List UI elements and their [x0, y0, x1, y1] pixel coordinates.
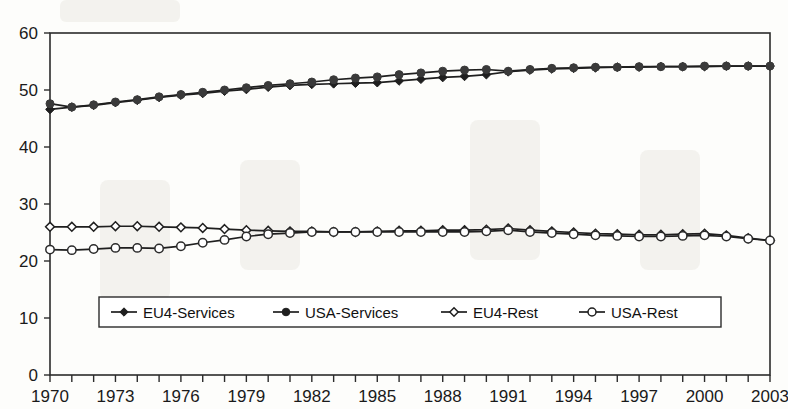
data-point-marker [177, 223, 186, 232]
data-point-marker [373, 228, 381, 236]
data-point-marker [67, 222, 76, 231]
x-tick-label: 1985 [358, 387, 396, 406]
y-axis-tick-marks [44, 33, 50, 375]
data-point-marker [90, 101, 98, 109]
series-usa-services [46, 62, 774, 111]
data-point-marker [570, 64, 578, 72]
data-point-marker [68, 246, 76, 254]
data-point-marker [591, 231, 599, 239]
data-point-marker [482, 227, 490, 235]
data-point-marker [701, 62, 709, 70]
data-point-marker [46, 245, 54, 253]
x-tick-label: 1991 [489, 387, 527, 406]
data-point-marker [286, 229, 294, 237]
data-point-marker [155, 244, 163, 252]
x-tick-label: 1976 [162, 387, 200, 406]
data-point-marker [177, 91, 185, 99]
x-tick-label: 1982 [293, 387, 331, 406]
x-tick-label: 1994 [555, 387, 593, 406]
data-point-marker [373, 73, 381, 81]
paper-smudges [60, 0, 700, 300]
y-tick-label: 0 [29, 366, 38, 385]
x-axis-tick-labels: 1970197319761979198219851988199119941997… [31, 387, 788, 406]
legend-label: EU4-Rest [473, 304, 539, 321]
data-point-marker [329, 228, 337, 236]
data-point-marker [635, 63, 643, 71]
data-point-marker [417, 69, 425, 77]
data-point-marker [591, 63, 599, 71]
data-point-marker [198, 224, 207, 233]
data-point-marker [111, 244, 119, 252]
data-point-marker [133, 96, 141, 104]
series-line [50, 66, 770, 109]
y-tick-label: 40 [19, 138, 38, 157]
data-point-marker [133, 244, 141, 252]
data-point-marker [68, 103, 76, 111]
data-point-marker [395, 228, 403, 236]
data-point-marker [526, 65, 534, 73]
y-tick-label: 20 [19, 252, 38, 271]
data-point-marker [548, 64, 556, 72]
y-tick-label: 10 [19, 309, 38, 328]
data-point-marker [351, 228, 359, 236]
data-point-marker [199, 88, 207, 96]
data-point-marker [744, 235, 752, 243]
data-point-marker [657, 63, 665, 71]
data-point-marker [220, 236, 228, 244]
data-point-marker [111, 98, 119, 106]
data-point-marker [504, 67, 512, 75]
data-point-marker [635, 232, 643, 240]
data-point-marker [46, 100, 54, 108]
data-point-marker [613, 232, 621, 240]
legend-label: USA-Rest [611, 304, 679, 321]
data-point-marker [504, 226, 512, 234]
data-point-marker [417, 228, 425, 236]
data-point-marker [221, 86, 229, 94]
data-point-marker [264, 81, 272, 89]
line-chart: 0102030405060 19701973197619791982198519… [0, 0, 788, 409]
data-point-marker [46, 222, 55, 231]
data-point-marker [722, 232, 730, 240]
data-point-marker [588, 308, 596, 316]
x-tick-label: 2003 [751, 387, 788, 406]
data-point-marker [569, 230, 577, 238]
data-point-marker [461, 66, 469, 74]
data-point-marker [199, 239, 207, 247]
series-eu4-services [46, 62, 775, 114]
data-point-marker [264, 230, 272, 238]
data-point-marker [351, 74, 359, 82]
data-point-marker [460, 228, 468, 236]
data-point-marker [439, 228, 447, 236]
data-point-marker [744, 62, 752, 70]
data-point-marker [220, 225, 229, 234]
data-point-marker [395, 71, 403, 79]
y-axis-tick-labels: 0102030405060 [19, 24, 38, 385]
data-point-marker [679, 63, 687, 71]
data-point-marker [282, 308, 290, 316]
data-point-marker [613, 63, 621, 71]
data-point-marker [548, 229, 556, 237]
data-point-marker [330, 76, 338, 84]
data-point-marker [308, 228, 316, 236]
data-point-marker [722, 62, 730, 70]
x-tick-label: 1973 [97, 387, 135, 406]
x-tick-label: 1970 [31, 387, 69, 406]
x-axis-tick-marks [50, 375, 770, 382]
data-point-marker [308, 78, 316, 86]
data-point-marker [657, 232, 665, 240]
legend-label: EU4-Services [143, 304, 235, 321]
data-point-marker [679, 232, 687, 240]
x-tick-label: 1979 [227, 387, 265, 406]
data-point-marker [526, 228, 534, 236]
data-point-marker [89, 245, 97, 253]
data-point-marker [766, 62, 774, 70]
y-tick-label: 50 [19, 81, 38, 100]
data-point-marker [177, 242, 185, 250]
data-point-marker [439, 67, 447, 75]
data-point-marker [482, 65, 490, 73]
y-tick-label: 30 [19, 195, 38, 214]
legend-label: USA-Services [305, 304, 398, 321]
chart-legend: EU4-ServicesUSA-ServicesEU4-RestUSA-Rest [99, 297, 721, 327]
x-tick-label: 1997 [620, 387, 658, 406]
y-tick-label: 60 [19, 24, 38, 43]
